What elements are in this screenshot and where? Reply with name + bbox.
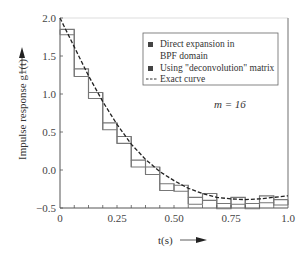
y-tick-label: 0.0 [42,164,56,176]
legend: Direct expansion in BPF domain Using "de… [143,33,278,85]
x-tick-label: 0 [57,212,63,224]
x-axis-title: t(s) [158,234,173,247]
x-axis-arrow-icon [180,237,207,243]
impulse-response-chart: 00.250.500.751.02.01.51.00.50.0−0.5 Dire… [0,0,307,260]
x-tick-label: 1.0 [281,212,295,224]
x-tick-label: 0.75 [221,212,241,224]
y-tick-label: −0.5 [36,202,56,214]
legend-label-direct-line2: BPF domain [160,51,208,61]
y-tick-label: 1.0 [42,88,56,100]
annotation-m: m = 16 [214,98,246,110]
legend-label-direct-line1: Direct expansion in [160,39,235,49]
y-tick-label: 2.0 [42,12,56,24]
y-tick-label: 1.5 [42,50,56,62]
legend-marker-square-icon [148,66,153,71]
y-tick-label: 0.5 [42,126,56,138]
legend-marker-square-icon [148,42,153,47]
legend-label-deconvolution: Using "deconvolution" matrix [160,63,275,73]
x-tick-label: 0.50 [164,212,184,224]
legend-label-exact: Exact curve [160,74,205,84]
x-tick-label: 0.25 [107,212,127,224]
y-axis-title: Impulse response g1(t) [16,59,29,160]
